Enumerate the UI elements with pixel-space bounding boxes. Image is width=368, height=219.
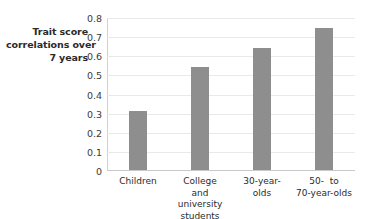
x-axis-category-label-line: university	[169, 199, 231, 211]
y-axis-title: Trait score correlations over 7 years	[6, 25, 88, 65]
x-axis-category-label: Collegeanduniversitystudents	[169, 176, 231, 219]
bar	[315, 28, 333, 170]
y-axis-tick-label: 0.5	[87, 70, 102, 81]
x-axis-category-label: 50- to70-year-olds	[293, 176, 355, 199]
x-axis-category-label: 30-year-olds	[231, 176, 293, 199]
bar	[129, 111, 147, 170]
bar	[253, 48, 271, 170]
y-axis-tick-label: 0.3	[87, 108, 102, 119]
y-axis-tick-label: 0.7	[87, 32, 102, 43]
y-axis-tick-label: 0.6	[87, 51, 102, 62]
y-axis-title-line-1: Trait score	[6, 25, 88, 38]
y-axis-title-line-2: correlations over	[6, 38, 88, 51]
x-axis-category-label-line: Children	[107, 176, 169, 188]
y-axis-tick-label: 0.1	[87, 146, 102, 157]
x-axis-category-label-line: 50- to	[293, 176, 355, 188]
x-axis-line	[107, 170, 355, 171]
y-axis-tick-label: 0.8	[87, 13, 102, 24]
y-axis-tick-label: 0.2	[87, 127, 102, 138]
plot-area: 0.80.70.60.50.40.30.20.10	[107, 18, 355, 171]
gridline	[107, 18, 355, 19]
bar	[191, 67, 209, 170]
x-axis-category-label-line: students	[169, 211, 231, 219]
chart-screenshot: Trait score correlations over 7 years 0.…	[0, 0, 368, 219]
x-axis-category-label-line: 70-year-olds	[293, 188, 355, 200]
x-axis-category-label-line: 30-year-	[231, 176, 293, 188]
y-axis-tick-label: 0	[96, 166, 102, 177]
x-axis-category-label: Children	[107, 176, 169, 188]
x-axis-category-label-line: and	[169, 188, 231, 200]
x-axis-category-label-line: olds	[231, 188, 293, 200]
x-axis-category-label-line: College	[169, 176, 231, 188]
y-axis-title-line-3: 7 years	[6, 51, 88, 64]
y-axis-tick-label: 0.4	[87, 89, 102, 100]
